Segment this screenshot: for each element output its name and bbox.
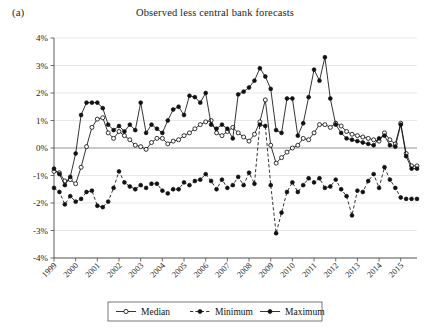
data-point	[101, 116, 105, 120]
data-point	[155, 136, 159, 140]
data-point	[74, 182, 78, 186]
data-point	[361, 190, 365, 194]
y-tick-label: 0%	[36, 143, 49, 153]
legend-marker-median	[124, 309, 128, 313]
data-point	[383, 134, 387, 138]
data-point	[312, 68, 316, 72]
legend-label-maximum: Maximum	[285, 307, 325, 317]
legend-label-median: Median	[141, 307, 170, 317]
data-point	[106, 131, 110, 135]
data-point	[204, 172, 208, 176]
data-point	[101, 106, 105, 110]
series-maximum	[52, 55, 419, 187]
series-minimum	[52, 123, 419, 235]
data-point	[280, 156, 284, 160]
data-point	[171, 108, 175, 112]
x-tick-label: 2011	[300, 260, 319, 279]
data-point	[307, 176, 311, 180]
data-point	[85, 101, 89, 105]
data-point	[242, 135, 246, 139]
data-point	[307, 95, 311, 99]
data-point	[301, 121, 305, 125]
data-point	[182, 134, 186, 138]
data-point	[52, 186, 56, 190]
data-point	[236, 92, 240, 96]
data-point	[269, 87, 273, 91]
data-point	[410, 167, 414, 171]
data-point	[247, 86, 251, 90]
data-point	[106, 200, 110, 204]
data-point	[101, 205, 105, 209]
data-point	[52, 167, 56, 171]
data-point	[328, 125, 332, 129]
data-point	[350, 138, 354, 142]
data-point	[356, 139, 360, 143]
data-point	[128, 138, 132, 142]
data-point	[339, 131, 343, 135]
data-point	[117, 130, 121, 134]
data-point	[334, 178, 338, 182]
x-tick-label: 1999	[40, 260, 59, 279]
data-point	[74, 200, 78, 204]
data-point	[123, 180, 127, 184]
data-point	[231, 183, 235, 187]
data-point	[345, 136, 349, 140]
data-point	[171, 187, 175, 191]
data-point	[85, 190, 89, 194]
data-point	[220, 178, 224, 182]
legend-label-minimum: Minimum	[215, 307, 254, 317]
data-point	[188, 94, 192, 98]
data-point	[68, 175, 72, 179]
line-chart: 4%3%2%1%0%-1%-2%-3%-4% 19992000200120022…	[0, 0, 430, 333]
data-point	[366, 142, 370, 146]
data-point	[339, 187, 343, 191]
data-point	[177, 138, 181, 142]
y-tick-label: 3%	[36, 61, 49, 71]
data-point	[253, 182, 257, 186]
data-point	[133, 128, 137, 132]
data-point	[296, 134, 300, 138]
data-point	[231, 136, 235, 140]
figure-container: (a) Observed less central bank forecasts…	[0, 0, 430, 333]
data-point	[139, 101, 143, 105]
data-point	[404, 197, 408, 201]
data-point	[117, 169, 121, 173]
data-point	[95, 101, 99, 105]
x-tick-label: 2007	[213, 260, 232, 279]
data-point	[204, 120, 208, 124]
data-point	[242, 183, 246, 187]
data-point	[193, 95, 197, 99]
y-tick-label: -3%	[33, 226, 48, 236]
data-point	[209, 119, 213, 123]
data-point	[112, 136, 116, 140]
data-point	[285, 150, 289, 154]
data-point	[139, 145, 143, 149]
data-point	[285, 97, 289, 101]
data-point	[323, 55, 327, 59]
data-point	[312, 131, 316, 135]
x-tick-label: 2012	[321, 260, 340, 279]
data-point	[263, 75, 267, 79]
data-point	[79, 165, 83, 169]
data-point	[399, 196, 403, 200]
data-point	[280, 211, 284, 215]
chart-legend: MedianMinimumMaximum	[108, 302, 325, 321]
data-point	[123, 130, 127, 134]
data-point	[79, 197, 83, 201]
x-tick-label: 2015	[386, 260, 405, 279]
data-point	[393, 145, 397, 149]
x-tick-label: 2006	[191, 260, 210, 279]
data-point	[361, 141, 365, 145]
data-point	[317, 123, 321, 127]
data-point	[112, 128, 116, 132]
data-point	[150, 141, 154, 145]
data-point	[166, 142, 170, 146]
data-point	[323, 186, 327, 190]
x-tick-label: 2008	[235, 260, 254, 279]
x-tick-label: 2005	[170, 260, 189, 279]
data-point	[63, 202, 67, 206]
data-point	[166, 119, 170, 123]
data-point	[215, 187, 219, 191]
chart-title: Observed less central bank forecasts	[0, 7, 430, 18]
data-point	[90, 125, 94, 129]
